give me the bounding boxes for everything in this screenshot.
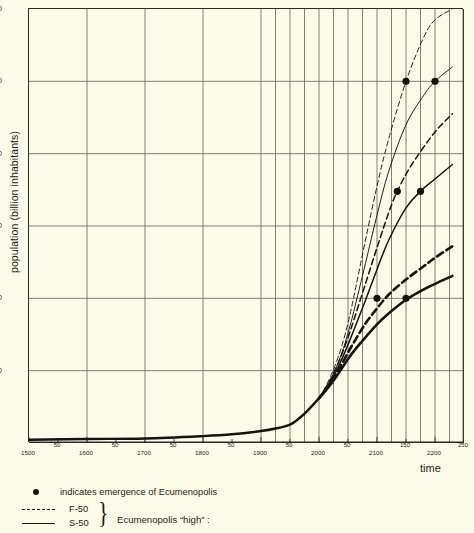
legend-row-emergence: indicates emergence of Ecumenopolis <box>33 487 217 497</box>
series-line-f-25 <box>319 114 452 398</box>
x-tick-label: 1800 <box>195 449 209 456</box>
x-tick-label: 2200 <box>427 449 441 456</box>
y-tick-label: 40 <box>0 149 2 156</box>
legend-row-f50: F-50 <box>22 504 105 514</box>
emergence-dot-s-50 <box>431 78 438 85</box>
series-line-s-25 <box>319 165 452 399</box>
emergence-dot-f-10 <box>373 295 380 302</box>
legend-group-label: Ecumenopolis “high” : <box>117 514 210 525</box>
x-tick-label: 50 <box>112 442 119 448</box>
chart-page: population (billion inhabitants) 6050403… <box>0 0 474 533</box>
y-tick-label: 60 <box>0 5 2 12</box>
filled-circle-icon <box>33 489 39 495</box>
x-tick-label: 1700 <box>137 449 151 456</box>
x-tick-label: 50 <box>344 442 351 448</box>
x-tick-label: 50 <box>228 442 235 448</box>
series-line-f-10 <box>319 246 452 398</box>
series-line-s-50 <box>319 67 452 398</box>
x-axis-title: time <box>420 462 441 474</box>
emergence-dot-f-25 <box>394 188 401 195</box>
x-tick-label: 50 <box>170 442 177 448</box>
x-tick-label: 1500 <box>21 449 35 456</box>
data-series-lines <box>29 9 452 440</box>
dashed-line-icon <box>22 505 55 513</box>
x-tick-label: 1900 <box>253 449 267 456</box>
emergence-dot-f-50 <box>402 78 409 85</box>
chart-canvas <box>29 9 464 443</box>
emergence-dot-s-10 <box>402 295 409 302</box>
emergence-dot-s-25 <box>417 188 424 195</box>
x-tick-label: 50 <box>54 442 61 448</box>
y-tick-label: 10 <box>0 366 2 373</box>
x-tick-label: 2100 <box>369 449 383 456</box>
y-axis-title: population (billion inhabitants) <box>8 2 20 402</box>
y-tick-label: 20 <box>0 294 2 301</box>
plot-area <box>28 8 463 442</box>
legend-emergence-text: indicates emergence of Ecumenopolis <box>60 487 217 497</box>
x-tick-label: 1600 <box>79 449 93 456</box>
x-tick-label: 2000 <box>311 449 325 456</box>
series-line-s-10 <box>319 276 452 398</box>
legend-brace-icon: } <box>98 497 108 527</box>
x-tick-label: 150 <box>400 442 410 448</box>
solid-line-icon <box>22 519 55 527</box>
y-tick-label: 30 <box>0 222 2 229</box>
y-tick-label: 50 <box>0 77 2 84</box>
series-line-f-50 <box>319 9 452 398</box>
legend-row-s50: S-50 <box>22 518 105 528</box>
x-tick-label: 250 <box>458 442 468 448</box>
x-tick-label: 50 <box>286 442 293 448</box>
